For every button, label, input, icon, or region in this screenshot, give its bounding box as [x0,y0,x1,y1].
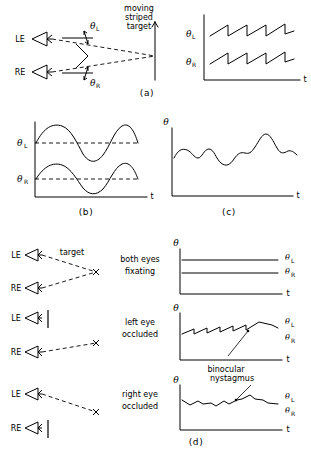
panel-d-row-2-plot: left eye occluded θ t θ L θ R binocular … [122,303,295,383]
d1-xlabel: t [286,289,289,298]
d2-right-eye-label: RE [11,348,22,357]
panel-a-left-eye-label: LE [15,35,25,44]
target-label-line-2: striped [125,13,153,22]
panel-a-xlabel: t [303,75,306,84]
panel-a-plot: θ L θ R t [186,15,307,84]
d2-annotation-line-2: nystagmus [210,374,254,383]
d3-right-eye-icon [25,422,42,434]
panel-d-row-3-diagram: LE RE [11,388,99,438]
convergence-cross [76,44,88,68]
d3-trace-sub-l: L [291,396,295,403]
d1-right-gaze-ray [42,272,96,288]
panel-d-row-1-diagram: LE RE target [11,248,99,295]
d3-target-marker [93,409,99,415]
panel-c-plot: θ t [163,117,299,200]
theta-l-subscript: L [96,25,100,32]
d1-ylabel: θ [173,238,179,248]
panel-d-row-2-diagram: LE RE [11,310,99,358]
panel-c-trace [174,134,297,165]
d1-left-eye-icon [25,249,42,261]
d3-xlabel: t [286,425,289,434]
d2-condition-line-2: occluded [122,330,158,339]
panel-a-ylabel-sub-l: L [192,33,196,40]
panel-b-ylabel-sub-r: R [24,178,28,185]
d1-condition-line-1: both eyes [120,255,159,264]
d2-left-eye-label: LE [11,314,21,323]
panel-b-ylabel-theta-r: θ [17,174,23,184]
figure-root: LE RE θ L θ R [0,0,311,455]
d3-condition-line-2: occluded [122,402,158,411]
d1-left-gaze-ray [42,255,96,272]
d1-target-label: target [60,248,84,257]
d3-axes [180,385,282,430]
left-eye-gaze-ray [52,39,155,56]
panel-a-right-eye-label: RE [15,68,26,77]
panel-d-label: (d) [189,437,204,447]
d2-xlabel: t [286,355,289,364]
d2-right-eye-icon [25,346,42,358]
right-eye-icon [32,65,52,79]
panel-a-label: (a) [140,88,154,98]
d1-left-eye-label: LE [11,251,21,260]
d3-condition-line-1: right eye [122,390,158,399]
panel-c-axes [172,128,293,196]
panel-a-trace-theta-r [210,52,294,64]
d2-axes [180,313,282,360]
panel-c-ylabel: θ [163,117,169,127]
d1-axes [180,249,282,294]
d3-trace-nystagmus [182,395,278,406]
theta-r-subscript: R [96,82,100,89]
d2-trace-sub-r: R [291,337,295,344]
d2-trace-sub-l: L [291,321,295,328]
d1-target-marker [93,269,99,275]
d3-trace-sub-r: R [291,410,295,417]
panel-a-ylabel-sub-r: R [192,61,196,68]
d1-right-eye-label: RE [11,284,22,293]
d3-ylabel: θ [173,375,179,385]
panel-a-axes [204,15,300,80]
target-label-line-3: target [127,22,151,31]
d3-trace-label-r: θ [285,406,290,415]
d1-trace-sub-r: R [291,271,295,278]
panel-c-xlabel: t [296,191,299,200]
d1-condition-line-2: fixating [125,267,155,276]
d3-left-eye-icon [25,388,42,400]
d2-right-gaze-ray [42,343,96,352]
panel-b-axes [35,122,147,197]
panel-b-plot: θ L θ R t [17,122,154,201]
panel-b-label: (b) [79,207,94,217]
d1-right-eye-icon [25,282,42,294]
d2-trace-label-l: θ [285,317,290,326]
panel-b-ylabel-sub-l: L [24,142,28,149]
d1-trace-sub-l: L [291,257,295,264]
d2-annotation-leader [228,331,248,356]
figure-canvas: LE RE θ L θ R [0,0,311,455]
left-eye-icon [32,32,52,46]
panel-d-row-1-plot: both eyes fixating θ t θ L θ R [120,238,295,298]
d2-ylabel: θ [173,303,179,313]
d2-trace-nystagmus [182,322,278,334]
d2-trace-label-r: θ [285,333,290,342]
d1-trace-label-l: θ [285,253,290,262]
panel-b-trace-theta-r [36,163,138,193]
panel-c-label: (c) [222,207,236,217]
panel-a-trace-theta-l [210,24,294,36]
right-eye-gaze-ray [52,56,155,72]
d3-right-eye-label: RE [11,424,22,433]
d1-trace-label-r: θ [285,267,290,276]
target-label-line-1: moving [124,4,154,13]
d2-left-eye-icon [25,312,42,324]
d3-trace-label-l: θ [285,392,290,401]
panel-b-ylabel-theta-l: θ [17,138,23,148]
d2-condition-line-1: left eye [125,318,155,327]
d3-left-eye-label: LE [11,390,21,399]
d3-left-gaze-ray [42,394,96,412]
panel-b-xlabel: t [150,192,153,201]
panel-a-diagram: LE RE θ L θ R [15,4,158,89]
panel-d-row-3-plot: right eye occluded θ t θ L θ R [122,375,295,434]
d2-annotation-line-1: binocular [207,365,245,374]
